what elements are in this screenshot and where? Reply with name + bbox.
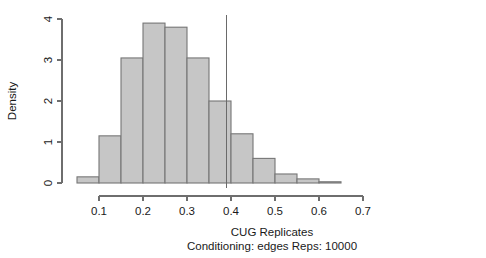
y-axis: 01234 <box>42 15 62 186</box>
y-axis-tick-label: 2 <box>42 98 54 104</box>
y-axis-title: Density <box>6 82 18 121</box>
x-axis-tick-label: 0.7 <box>355 205 371 217</box>
y-axis-tick-label: 4 <box>42 15 54 22</box>
x-axis-tick-label: 0.4 <box>223 205 240 217</box>
x-axis-tick-label: 0.1 <box>91 205 107 217</box>
histogram-bar <box>165 27 187 183</box>
histogram-bar <box>231 134 253 183</box>
x-axis-title: CUG Replicates <box>231 226 314 238</box>
histogram-bars <box>77 23 341 183</box>
y-axis-tick-label: 1 <box>42 139 54 145</box>
y-axis-tick-label: 0 <box>42 180 54 186</box>
cug-histogram-plot: 01234 0.10.20.30.40.50.60.7 Density CUG … <box>0 0 486 258</box>
histogram-bar <box>121 58 143 183</box>
histogram-bar <box>253 158 275 183</box>
x-axis: 0.10.20.30.40.50.60.7 <box>91 196 371 217</box>
x-axis-tick-label: 0.6 <box>311 205 327 217</box>
histogram-bar <box>187 58 209 183</box>
plot-canvas: 01234 0.10.20.30.40.50.60.7 Density CUG … <box>0 0 486 258</box>
histogram-bar <box>99 136 121 183</box>
histogram-bar <box>297 179 319 183</box>
histogram-bar <box>275 174 297 183</box>
histogram-bar <box>77 177 99 183</box>
histogram-bar <box>209 101 231 183</box>
x-axis-tick-label: 0.2 <box>135 205 151 217</box>
histogram-bar <box>319 182 341 183</box>
x-axis-tick-label: 0.3 <box>179 205 195 217</box>
plot-subtitle: Conditioning: edges Reps: 10000 <box>187 240 357 252</box>
y-axis-tick-label: 3 <box>42 57 54 63</box>
x-axis-tick-label: 0.5 <box>267 205 283 217</box>
histogram-bar <box>143 23 165 183</box>
